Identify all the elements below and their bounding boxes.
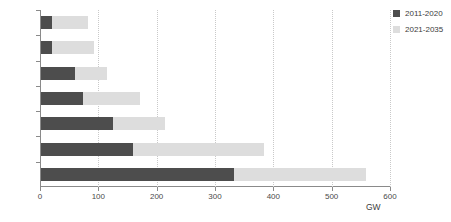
legend-label: 2021-2035 <box>405 25 443 34</box>
bar-row <box>41 143 391 156</box>
legend-label: 2011-2020 <box>405 9 443 18</box>
bar-segment <box>41 16 52 29</box>
y-tick-mark <box>36 35 40 36</box>
bar-segment <box>41 41 52 54</box>
bar-segment <box>113 117 165 130</box>
bar-segment <box>75 67 107 80</box>
x-tick-mark <box>390 187 391 191</box>
bar-segment <box>52 16 88 29</box>
x-tick-mark <box>157 187 158 191</box>
x-tick-mark <box>332 187 333 191</box>
y-tick-mark <box>36 10 40 11</box>
legend-item-2011-2020[interactable]: 2011-2020 <box>393 8 451 18</box>
plot-area: 0100200300400500600 OtherSolar PVNuclear… <box>40 10 390 187</box>
bar-segment <box>52 41 94 54</box>
x-tick-label: 600 <box>370 192 410 201</box>
y-tick-mark <box>36 136 40 137</box>
chart-container: 0100200300400500600 OtherSolar PVNuclear… <box>0 0 451 222</box>
x-tick-mark <box>98 187 99 191</box>
x-axis-title: GW <box>366 202 381 212</box>
bar-segment <box>133 143 264 156</box>
x-tick-label: 100 <box>78 192 118 201</box>
y-tick-mark <box>36 86 40 87</box>
y-tick-mark <box>36 61 40 62</box>
legend-item-2021-2035[interactable]: 2021-2035 <box>393 24 451 34</box>
bar-segment <box>83 92 140 105</box>
bar-row <box>41 92 391 105</box>
x-tick-label: 200 <box>137 192 177 201</box>
bar-row <box>41 41 391 54</box>
bar-segment <box>41 67 75 80</box>
legend-swatch-icon <box>393 26 400 33</box>
legend-swatch-icon <box>393 10 400 17</box>
bar-row <box>41 67 391 80</box>
bar-segment <box>41 168 234 181</box>
x-tick-label: 400 <box>253 192 293 201</box>
bar-row <box>41 117 391 130</box>
bar-row <box>41 16 391 29</box>
x-tick-mark <box>273 187 274 191</box>
y-tick-mark <box>36 111 40 112</box>
x-tick-label: 500 <box>312 192 352 201</box>
bar-segment <box>234 168 366 181</box>
x-tick-mark <box>40 187 41 191</box>
bar-segment <box>41 143 133 156</box>
bar-row <box>41 168 391 181</box>
chart-legend: 2011-2020 2021-2035 <box>393 8 451 40</box>
y-tick-mark <box>36 162 40 163</box>
bar-segment <box>41 92 83 105</box>
bar-segment <box>41 117 113 130</box>
x-tick-label: 0 <box>20 192 60 201</box>
x-tick-label: 300 <box>195 192 235 201</box>
x-tick-mark <box>215 187 216 191</box>
